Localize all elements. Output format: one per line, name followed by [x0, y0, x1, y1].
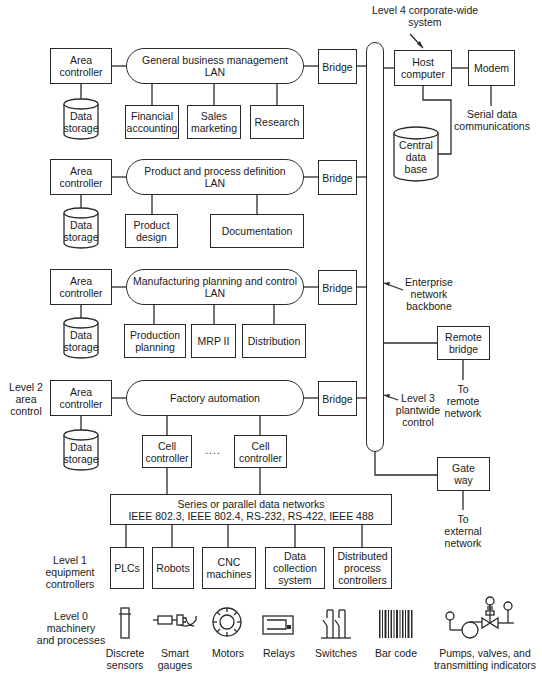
node-sales-marketing: Sales marketing [187, 105, 241, 139]
modem: Modem [468, 50, 515, 86]
bridge-3: Bridge [318, 270, 357, 305]
area-controller-4: Area controller [50, 380, 112, 416]
data-storage-4: Data storage [63, 429, 99, 471]
cell-controller-2: Cell controller [234, 435, 287, 468]
area-controller-3: Area controller [50, 269, 112, 305]
network-hierarchy-diagram: Level 4 corporate-wide system Enterprise… [0, 0, 542, 678]
device-label-bar-code: Bar code [370, 647, 422, 659]
bridge-2: Bridge [318, 160, 357, 195]
lan-general-business: General business management LAN [126, 48, 304, 84]
barcode-icon [378, 610, 414, 638]
field-data-network: Series or parallel data networks IEEE 80… [110, 494, 392, 525]
lan-product-process-definition: Product and process definition LAN [126, 159, 304, 195]
node-product-design: Product design [125, 214, 178, 248]
device-label-discrete-sensors: Discrete sensors [100, 647, 150, 671]
level2-label: Level 2 area control [6, 381, 46, 417]
node-financial-accounting: Financial accounting [125, 105, 179, 139]
device-label-relays: Relays [254, 647, 304, 659]
data-storage-label: Data storage [63, 219, 98, 243]
data-storage-label: Data storage [63, 329, 98, 353]
data-storage-2: Data storage [63, 207, 99, 249]
serial-data-label: Serial data communications [452, 108, 532, 132]
external-network-label: To external network [440, 513, 486, 549]
equipment-robots: Robots [152, 547, 194, 589]
equipment-cnc-machines: CNC machines [202, 547, 256, 589]
remote-bridge: Remote bridge [437, 326, 490, 360]
level0-label: Level 0 machinery and processes [36, 610, 106, 646]
node-production-planning: Production planning [124, 324, 186, 358]
lan-factory-automation: Factory automation [126, 380, 304, 416]
backbone-label: Enterprise network backbone [398, 276, 460, 312]
remote-network-label: To remote network [440, 383, 486, 419]
data-storage-label: Data storage [63, 441, 98, 465]
bridge-4: Bridge [318, 381, 357, 416]
level3-label: Level 3 plantwide control [392, 392, 444, 428]
ellipsis: .... [200, 444, 226, 456]
equipment-distributed-controllers: Distributed process controllers [333, 547, 392, 589]
central-database: Central data base [393, 126, 439, 182]
node-documentation: Documentation [210, 214, 304, 248]
level1-label: Level 1 equipment controllers [40, 554, 100, 590]
equipment-data-collection: Data collection system [265, 547, 325, 589]
bridge-1: Bridge [318, 49, 357, 84]
discrete-sensor-icon [118, 606, 132, 640]
pump-valve-icon [444, 596, 520, 642]
level4-label: Level 4 corporate-wide system [350, 4, 500, 28]
device-label-smart-gauges: Smart gauges [150, 647, 200, 671]
switch-icon [320, 606, 352, 640]
enterprise-network-backbone [366, 42, 384, 452]
smart-gauge-icon [152, 610, 198, 642]
area-controller-1: Area controller [50, 48, 112, 84]
gateway: Gate way [437, 457, 490, 491]
device-label-switches: Switches [310, 647, 362, 659]
data-storage-label: Data storage [63, 110, 98, 134]
data-storage-1: Data storage [63, 98, 99, 140]
node-mrp-ii: MRP II [191, 324, 236, 358]
area-controller-2: Area controller [50, 159, 112, 195]
central-database-label: Central data base [399, 139, 433, 175]
data-storage-3: Data storage [63, 317, 99, 359]
motor-icon [211, 606, 243, 638]
equipment-plcs: PLCs [110, 547, 144, 589]
host-computer: Host computer [394, 50, 452, 86]
cell-controller-1: Cell controller [142, 435, 192, 468]
relay-icon [262, 614, 296, 636]
device-label-motors: Motors [203, 647, 253, 659]
device-label-pumps-valves: Pumps, valves, and transmitting indicato… [430, 647, 540, 671]
node-distribution: Distribution [242, 324, 306, 358]
lan-manufacturing-planning: Manufacturing planning and control LAN [126, 269, 304, 305]
node-research: Research [250, 105, 304, 139]
